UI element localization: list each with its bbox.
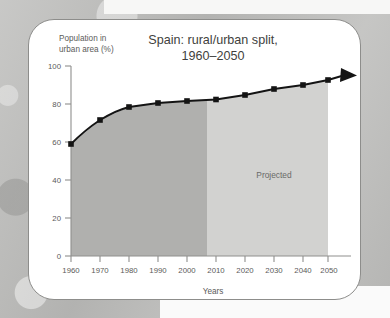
x-tick-label-2000: 2000: [178, 266, 196, 275]
data-point-2050: [325, 77, 331, 83]
y-tick-labels: 0 20 40 60 80 100: [48, 62, 62, 261]
x-tick-label-1970: 1970: [91, 266, 109, 275]
data-point-1960: [68, 141, 74, 147]
area-fill-projected: [207, 80, 328, 256]
y-tick-label-100: 100: [48, 62, 62, 71]
chart-card: 0 20 40 60 80 100 1960 1970 1980 1990 20…: [28, 19, 361, 300]
y-tick-label-20: 20: [52, 214, 61, 223]
x-tick-marks: [71, 256, 328, 262]
y-tick-label-40: 40: [52, 176, 61, 185]
data-point-2040: [300, 82, 306, 88]
background-panel-top: [104, 0, 390, 14]
x-tick-label-2040: 2040: [294, 266, 312, 275]
projected-annotation: Projected: [256, 170, 292, 180]
x-axis-label: Years: [203, 287, 224, 296]
x-tick-label-1990: 1990: [149, 266, 167, 275]
x-tick-label-1960: 1960: [62, 266, 80, 275]
area-fill-historical: [71, 100, 207, 256]
data-point-2020: [242, 92, 248, 98]
y-axis-label-line2: urban area (%): [59, 45, 114, 54]
x-tick-label-2050: 2050: [320, 266, 338, 275]
data-point-1990: [155, 100, 161, 106]
data-point-1980: [126, 104, 132, 110]
x-tick-label-2020: 2020: [236, 266, 254, 275]
y-tick-label-80: 80: [52, 100, 61, 109]
x-tick-label-1980: 1980: [120, 266, 138, 275]
data-point-1970: [97, 117, 103, 123]
y-axis-label-line1: Population in: [59, 34, 107, 43]
line-chart: 0 20 40 60 80 100 1960 1970 1980 1990 20…: [29, 20, 362, 301]
y-tick-marks: [65, 66, 71, 256]
y-axis-label: Population in urban area (%): [59, 34, 114, 54]
x-tick-label-2010: 2010: [207, 266, 225, 275]
y-tick-label-0: 0: [57, 252, 62, 261]
line-end-arrow-icon: [340, 68, 357, 82]
chart-title-line1: Spain: rural/urban split,: [148, 33, 278, 47]
data-point-2010: [213, 97, 219, 103]
y-tick-label-60: 60: [52, 138, 61, 147]
data-point-2000: [184, 98, 190, 104]
area-fill-group: [71, 80, 328, 256]
x-tick-labels: 1960 1970 1980 1990 2000 2010 2020 2030 …: [62, 266, 338, 275]
data-point-2030: [271, 86, 277, 92]
chart-title-line2: 1960–2050: [181, 49, 244, 63]
x-tick-label-2030: 2030: [265, 266, 283, 275]
chart-title: Spain: rural/urban split, 1960–2050: [148, 33, 278, 63]
